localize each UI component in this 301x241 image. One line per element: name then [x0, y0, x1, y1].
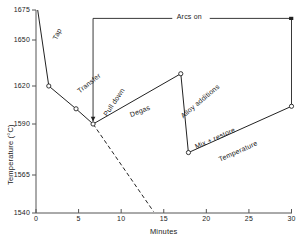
annotation-arcs-on: Arcs on: [177, 13, 202, 20]
chart-canvas: [0, 0, 300, 241]
x-tick-label: 20: [194, 215, 218, 222]
x-axis-title: Minutes: [124, 227, 204, 236]
series-line-melt-thermal-history: [38, 10, 292, 153]
y-tick-label: 1675: [0, 6, 30, 13]
x-tick-label: 0: [24, 215, 48, 222]
y-tick-label: 1650: [0, 36, 30, 43]
y-tick-label: 1590: [0, 120, 30, 127]
y-tick-label: 1620: [0, 82, 30, 89]
x-tick-label: 5: [67, 215, 91, 222]
axes: [36, 10, 292, 213]
series-line-natural-cooling-extrapolation: [93, 124, 153, 212]
y-tick-label: 1565: [0, 171, 30, 178]
data-point-marker: [91, 122, 95, 126]
x-tick-marks: [36, 209, 292, 213]
y-tick-marks: [32, 10, 36, 213]
x-tick-label: 25: [237, 215, 261, 222]
x-tick-label: 30: [280, 215, 301, 222]
chart-figure: Temperature (°C) Minutes 154015651590162…: [0, 0, 300, 241]
data-point-marker: [289, 104, 293, 108]
x-tick-label: 10: [109, 215, 133, 222]
data-point-marker: [74, 107, 78, 111]
bracket-end-cap: [289, 17, 293, 20]
x-tick-label: 15: [152, 215, 176, 222]
data-point-marker: [47, 84, 51, 88]
data-point-marker: [179, 72, 183, 76]
data-point-marker: [186, 150, 190, 154]
bracket-arrow-icon: [91, 117, 96, 122]
